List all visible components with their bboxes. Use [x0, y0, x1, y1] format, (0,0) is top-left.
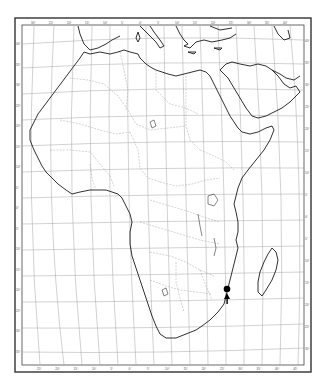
left-latitude-tick: 0° [16, 206, 20, 210]
left-latitude-tick: 15° [16, 145, 21, 149]
bottom-longitude-tick: 5° [147, 367, 151, 371]
bottom-longitude-tick: 0° [129, 367, 133, 371]
right-latitude-tick: 0° [305, 215, 309, 219]
top-longitude-tick: 30° [247, 21, 252, 25]
right-latitude-tick: 10° [305, 259, 310, 263]
right-latitude-tick: 30° [305, 347, 310, 351]
right-latitude-tick: 40° [305, 39, 310, 43]
left-latitude-tick: 5° [16, 227, 20, 231]
lake-chad [150, 120, 156, 128]
right-latitude-tick: 25° [305, 325, 310, 329]
left-latitude-tick: 35° [16, 350, 21, 354]
lake-victoria [208, 194, 218, 206]
left-latitude-tick: 30° [16, 83, 21, 87]
right-latitude-tick: 5° [305, 237, 309, 241]
right-latitude-tick: 5° [305, 193, 309, 197]
bottom-longitude-tick: 10° [165, 367, 170, 371]
graticule [22, 26, 304, 365]
left-latitude-tick: 25° [16, 104, 21, 108]
left-latitude-tick: 40° [16, 42, 21, 46]
top-longitude-tick: 40° [283, 21, 288, 25]
right-latitude-tick: 20° [305, 303, 310, 307]
top-longitude-tick: 20° [211, 21, 216, 25]
bottom-longitude-tick: 25° [37, 367, 42, 371]
top-longitude-tick: 15° [85, 21, 90, 25]
left-latitude-tick: 35° [16, 63, 21, 67]
top-longitude-tick: 0° [139, 21, 143, 25]
right-latitude-tick: 35° [305, 61, 310, 65]
occurrence-marker-circle [224, 286, 231, 293]
top-longitude-tick: 25° [49, 21, 54, 25]
top-longitude-tick: 25° [229, 21, 234, 25]
bottom-longitude-tick: 20° [202, 367, 207, 371]
left-latitude-tick: 5° [16, 186, 20, 190]
left-latitude-tick: 25° [16, 309, 21, 313]
bottom-longitude-tick: 5° [110, 367, 114, 371]
right-latitude-tick: 20° [305, 127, 310, 131]
bottom-longitude-tick: 15° [183, 367, 188, 371]
left-latitude-tick: 15° [16, 268, 21, 272]
left-latitude-tick: 20° [16, 124, 21, 128]
left-latitude-tick: 10° [16, 165, 21, 169]
top-longitude-tick: 5° [157, 21, 161, 25]
top-longitude-tick: 5° [121, 21, 125, 25]
lake-tanganyika [198, 214, 202, 236]
right-latitude-tick: 25° [305, 105, 310, 109]
right-latitude-tick: 30° [305, 83, 310, 87]
occurrence-marker-stem [226, 298, 227, 304]
left-latitude-tick: 20° [16, 288, 21, 292]
top-longitude-tick: 20° [67, 21, 72, 25]
top-longitude-tick: 10° [175, 21, 180, 25]
bottom-longitude-tick: 25° [220, 367, 225, 371]
right-latitude-tick: 10° [305, 171, 310, 175]
top-longitude-tick: 30° [31, 21, 36, 25]
okavango [162, 288, 168, 296]
africa-map: 30°25°20°15°10°5°0°5°10°15°20°25°30°35°4… [0, 0, 326, 391]
right-latitude-tick: 15° [305, 281, 310, 285]
bottom-longitude-tick: 45° [293, 367, 298, 371]
lakes [150, 120, 218, 296]
bottom-longitude-tick: 40° [275, 367, 280, 371]
top-longitude-tick: 35° [265, 21, 270, 25]
bottom-longitude-tick: 30° [238, 367, 243, 371]
lake-malawi [214, 238, 216, 256]
right-latitude-tick: 15° [305, 149, 310, 153]
top-longitude-tick: 15° [193, 21, 198, 25]
left-latitude-tick: 10° [16, 247, 21, 251]
bottom-longitude-tick: 35° [257, 367, 262, 371]
bottom-longitude-tick: 15° [74, 367, 79, 371]
coastlines [30, 26, 300, 338]
bottom-longitude-tick: 20° [55, 367, 60, 371]
top-longitude-tick: 10° [103, 21, 108, 25]
left-latitude-tick: 30° [16, 329, 21, 333]
bottom-longitude-tick: 10° [92, 367, 97, 371]
